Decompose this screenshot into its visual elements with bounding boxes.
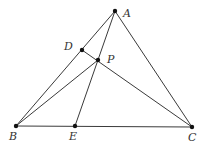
point-e xyxy=(73,124,77,128)
segment-bc xyxy=(16,126,192,127)
label-d: D xyxy=(63,40,73,53)
segments xyxy=(16,11,192,127)
label-c: C xyxy=(188,131,197,144)
segment-ab xyxy=(16,11,115,126)
label-a: A xyxy=(122,7,131,20)
label-e: E xyxy=(68,130,77,143)
point-labels: ABCDEP xyxy=(8,7,197,144)
point-a xyxy=(113,9,117,13)
points xyxy=(14,9,194,129)
point-b xyxy=(14,124,18,128)
triangle-diagram: ABCDEP xyxy=(0,0,205,160)
label-p: P xyxy=(106,53,115,66)
point-p xyxy=(96,58,100,62)
point-c xyxy=(190,125,194,129)
label-b: B xyxy=(8,130,17,143)
point-d xyxy=(80,48,84,52)
geometry-figure: ABCDEP xyxy=(0,0,205,160)
segment-ac xyxy=(115,11,192,127)
segment-bp xyxy=(16,60,98,126)
